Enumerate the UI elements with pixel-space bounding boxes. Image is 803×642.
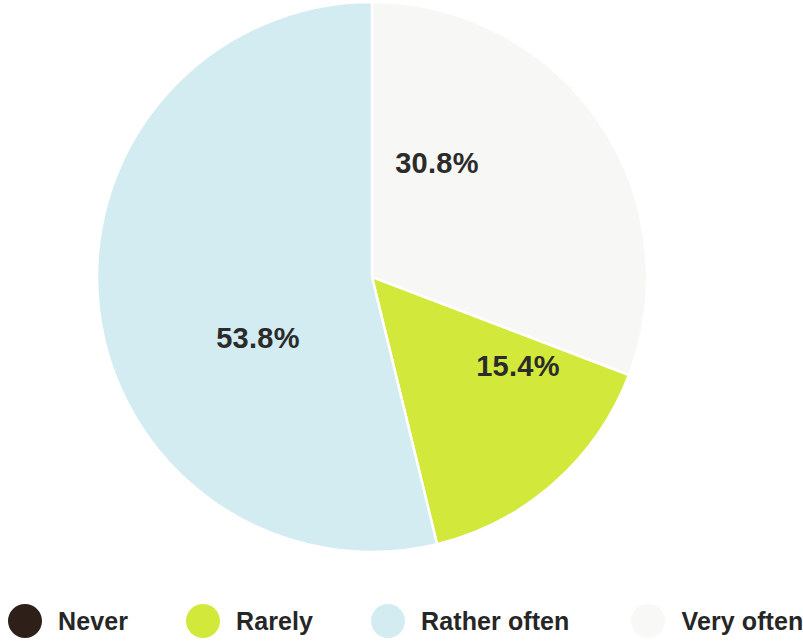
legend-swatch-very-often-icon — [631, 604, 665, 638]
legend-label-rarely: Rarely — [236, 607, 313, 636]
legend-swatch-rarely-icon — [186, 604, 220, 638]
pie-slice-value-very-often: 30.8% — [395, 147, 479, 179]
legend-item-rather-often[interactable]: Rather often — [371, 600, 569, 642]
pie-chart-figure: 30.8%15.4%53.8% — [0, 0, 749, 580]
legend-swatch-never-icon — [8, 604, 42, 638]
chart-legend: Never Rarely Rather often Very often — [0, 600, 749, 642]
legend-label-never: Never — [58, 607, 128, 636]
legend-label-very-often: Very often — [681, 607, 803, 636]
legend-item-never[interactable]: Never — [8, 600, 128, 642]
pie-chart-svg: 30.8%15.4%53.8% — [0, 0, 749, 580]
legend-swatch-rather-often-icon — [371, 604, 405, 638]
legend-item-very-often[interactable]: Very often — [631, 600, 803, 642]
pie-slices — [97, 2, 647, 552]
pie-slice-value-rarely: 15.4% — [476, 350, 560, 382]
pie-slice-value-rather-often: 53.8% — [216, 322, 300, 354]
legend-item-rarely[interactable]: Rarely — [186, 600, 313, 642]
legend-label-rather-often: Rather often — [421, 607, 569, 636]
